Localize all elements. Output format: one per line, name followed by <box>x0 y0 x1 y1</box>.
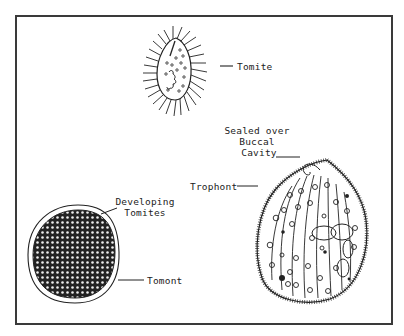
label-developing-line1: Developing <box>112 196 178 207</box>
diagram-figure: Tomite Sealed over Buccal Cavity Trophon… <box>0 0 404 336</box>
label-sealed-line3: Cavity <box>222 147 292 158</box>
label-developing-line2: Tomites <box>112 207 178 218</box>
label-sealed-over-buccal-cavity: Sealed over Buccal Cavity <box>222 125 292 158</box>
trophont-illustration <box>237 157 367 302</box>
label-trophont: Trophont <box>190 181 237 192</box>
tomont-illustration <box>28 205 144 303</box>
tomont-cytoplasm <box>33 210 115 298</box>
label-sealed-line2: Buccal <box>222 136 292 147</box>
diagram-drawing <box>0 0 404 336</box>
label-tomont: Tomont <box>147 275 183 286</box>
label-developing-tomites: Developing Tomites <box>112 196 178 218</box>
label-sealed-line1: Sealed over <box>222 125 292 136</box>
tomite-illustration <box>143 26 233 116</box>
label-tomite: Tomite <box>237 61 273 72</box>
